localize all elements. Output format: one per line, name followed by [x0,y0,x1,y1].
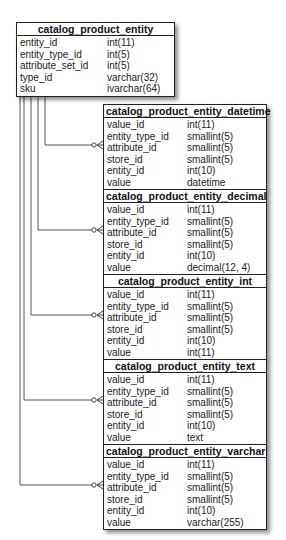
table-title: catalog_product_entity_text [104,360,266,373]
table-row: store_idsmallint(5) [104,154,266,166]
table-title: catalog_product_entity_int [104,275,266,288]
crows-foot-icon [92,396,103,404]
table-row: value_idint(11) [104,459,266,471]
crows-foot-icon [92,481,103,489]
table-row: attribute_set_idint(5) [17,60,174,72]
table-title: catalog_product_entity_varchar [104,445,266,458]
table-row: entity_type_idsmallint(5) [104,301,266,313]
table-row: skuivarchar(64) [17,83,174,95]
table-title: catalog_product_entity [17,23,174,36]
connector-int [31,84,95,315]
table-row: entity_idint(10) [104,335,266,347]
table-catalog-product-entity-decimal[interactable]: catalog_product_entity_decimal value_idi… [103,189,267,275]
crows-foot-icon [92,311,103,319]
crows-foot-icon [92,226,103,234]
table-title: catalog_product_entity_datetime [104,105,266,118]
table-row: entity_idint(10) [104,420,266,432]
table-row: value_idint(11) [104,119,266,131]
table-row: valuedecimal(12, 4) [104,262,266,274]
table-row: value_idint(11) [104,289,266,301]
table-row: store_idsmallint(5) [104,494,266,506]
table-row: store_idsmallint(5) [104,324,266,336]
table-row: entity_idint(10) [104,250,266,262]
table-row: attribute_idsmallint(5) [104,142,266,154]
table-row: entity_type_idsmallint(5) [104,216,266,228]
table-row: entity_type_idsmallint(5) [104,386,266,398]
connector-decimal [38,84,95,230]
table-row: entity_type_idsmallint(5) [104,131,266,143]
table-catalog-product-entity[interactable]: catalog_product_entity entity_idint(11) … [16,22,175,97]
table-title: catalog_product_entity_decimal [104,190,266,203]
connector-text [24,84,95,400]
crows-foot-icon [92,141,103,149]
table-row: value_idint(11) [104,374,266,386]
table-row: entity_type_idsmallint(5) [104,471,266,483]
table-row: entity_idint(10) [104,165,266,177]
table-row: entity_idint(10) [104,505,266,517]
table-row: valueint(11) [104,347,266,359]
table-row: valuedatetime [104,177,266,189]
table-catalog-product-entity-text[interactable]: catalog_product_entity_text value_idint(… [103,359,267,445]
table-row: value_idint(11) [104,204,266,216]
table-row: attribute_idsmallint(5) [104,482,266,494]
table-row: valuevarchar(255) [104,517,266,529]
table-catalog-product-entity-int[interactable]: catalog_product_entity_int value_idint(1… [103,274,267,360]
table-row: attribute_idsmallint(5) [104,227,266,239]
table-row: attribute_idsmallint(5) [104,397,266,409]
table-row: entity_idint(11) [17,37,174,49]
table-catalog-product-entity-datetime[interactable]: catalog_product_entity_datetime value_id… [103,104,267,190]
table-row: store_idsmallint(5) [104,409,266,421]
table-row: store_idsmallint(5) [104,239,266,251]
table-row: type_idvarchar(32) [17,72,174,84]
table-row: attribute_idsmallint(5) [104,312,266,324]
table-catalog-product-entity-varchar[interactable]: catalog_product_entity_varchar value_idi… [103,444,267,530]
table-row: valuetext [104,432,266,444]
table-row: entity_type_idint(5) [17,49,174,61]
